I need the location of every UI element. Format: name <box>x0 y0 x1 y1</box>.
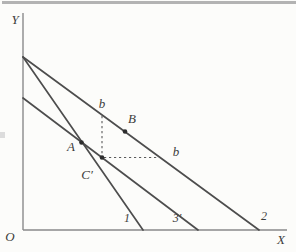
budget-line-diagram: Y O X A B C′ b b 1 3′ 2 <box>0 0 296 252</box>
budget-lines-figure: Y O X A B C′ b b 1 3′ 2 <box>0 0 296 252</box>
origin-label: O <box>5 229 15 244</box>
left-edge-scan-artifact <box>0 132 5 138</box>
point-b-dot <box>123 129 128 134</box>
top-scan-band <box>2 1 296 4</box>
point-c-prime-label: C′ <box>81 167 93 182</box>
line-3-prime-label: 3′ <box>172 211 182 225</box>
point-a-label: A <box>66 139 75 154</box>
point-b-label: B <box>128 111 136 126</box>
figure-background <box>0 0 296 252</box>
marker-b-lower-label: b <box>173 144 180 159</box>
line-2-label: 2 <box>261 209 267 223</box>
x-axis-label: X <box>276 232 286 247</box>
marker-b-upper-label: b <box>99 96 106 111</box>
line-1-label: 1 <box>124 211 130 225</box>
point-a-dot <box>79 140 84 145</box>
point-c-prime-dot <box>100 155 105 160</box>
